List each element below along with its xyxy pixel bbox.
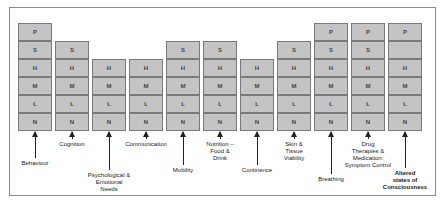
level-column: SHMLN (203, 41, 237, 131)
domain-label: Altered states of Consciousness (383, 170, 427, 191)
level-cell: H (129, 59, 163, 77)
level-cell: P (18, 23, 52, 41)
level-column: PSHMLN (314, 23, 348, 131)
up-arrow-icon (109, 132, 110, 170)
up-arrow-icon (368, 132, 369, 139)
level-cell: N (92, 113, 126, 131)
level-column: HMLN (129, 59, 163, 131)
level-column: PSHMLN (351, 23, 385, 131)
level-cell: L (55, 95, 89, 113)
level-cell: N (240, 113, 274, 131)
level-column: HMLN (92, 59, 126, 131)
domain-label: Psychological & Emotional Needs (88, 172, 130, 193)
level-cell: H (166, 59, 200, 77)
level-cell: M (203, 77, 237, 95)
level-column: SHMLN (166, 41, 200, 131)
level-cell: L (240, 95, 274, 113)
level-cell: H (92, 59, 126, 77)
level-cell: N (277, 113, 311, 131)
domain-label: Breathing (318, 176, 344, 183)
level-cell (388, 41, 422, 59)
level-cell: S (277, 41, 311, 59)
level-cell: S (203, 41, 237, 59)
level-cell: M (92, 77, 126, 95)
level-cell: M (55, 77, 89, 95)
up-arrow-icon (183, 132, 184, 165)
level-cell: H (55, 59, 89, 77)
domain-label: Continence (242, 167, 272, 174)
domain-label: Drug Therapies & Medication: Symptom Con… (345, 141, 391, 169)
level-cell: P (314, 23, 348, 41)
level-cell: M (314, 77, 348, 95)
domain-label: Nutrition – Food & Drink (206, 141, 233, 162)
domain-label: Skin & Tissue Viability (284, 141, 305, 162)
domain-label: Behaviour (21, 160, 48, 167)
level-cell: H (351, 59, 385, 77)
level-cell: L (314, 95, 348, 113)
level-cell: M (277, 77, 311, 95)
level-cell: N (129, 113, 163, 131)
level-cell: L (351, 95, 385, 113)
level-cell: N (203, 113, 237, 131)
up-arrow-icon (331, 132, 332, 174)
level-cell: N (314, 113, 348, 131)
level-cell: L (388, 95, 422, 113)
up-arrow-icon (146, 132, 147, 139)
up-arrow-icon (220, 132, 221, 139)
domain-label: Mobility (173, 167, 193, 174)
up-arrow-icon (294, 132, 295, 139)
level-cell: L (166, 95, 200, 113)
level-cell: M (351, 77, 385, 95)
level-cell: H (314, 59, 348, 77)
level-column: SHMLN (277, 41, 311, 131)
level-cell: P (388, 23, 422, 41)
level-cell: H (388, 59, 422, 77)
level-column: HMLN (240, 59, 274, 131)
domain-label: Communication (125, 141, 167, 148)
level-cell: M (240, 77, 274, 95)
level-cell: M (388, 77, 422, 95)
level-cell: P (351, 23, 385, 41)
level-cell: N (351, 113, 385, 131)
up-arrow-icon (257, 132, 258, 165)
level-cell: L (203, 95, 237, 113)
level-cell: L (18, 95, 52, 113)
level-cell: M (18, 77, 52, 95)
level-cell: S (351, 41, 385, 59)
level-cell: L (277, 95, 311, 113)
level-cell: N (55, 113, 89, 131)
level-column: SHMLN (55, 41, 89, 131)
level-cell: H (18, 59, 52, 77)
level-cell: M (166, 77, 200, 95)
level-cell: N (388, 113, 422, 131)
level-cell: N (166, 113, 200, 131)
up-arrow-icon (405, 132, 406, 168)
level-cell: S (18, 41, 52, 59)
up-arrow-icon (72, 132, 73, 139)
level-cell: M (129, 77, 163, 95)
level-column: PHMLN (388, 23, 422, 131)
level-cell: H (240, 59, 274, 77)
level-cell: S (314, 41, 348, 59)
level-cell: L (92, 95, 126, 113)
level-cell: N (18, 113, 52, 131)
domain-label: Cognition (59, 141, 84, 148)
level-cell: S (55, 41, 89, 59)
level-column: PSHMLN (18, 23, 52, 131)
up-arrow-icon (35, 132, 36, 158)
level-cell: H (277, 59, 311, 77)
level-cell: S (166, 41, 200, 59)
level-cell: H (203, 59, 237, 77)
level-cell: L (129, 95, 163, 113)
